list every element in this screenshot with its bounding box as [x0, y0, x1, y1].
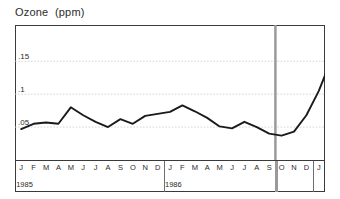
month-tick-6: J	[89, 164, 102, 172]
year-label-1986: 1986	[165, 181, 182, 189]
month-tick-13: F	[176, 164, 189, 172]
month-tick-3: A	[52, 164, 65, 172]
month-tick-15: A	[201, 164, 214, 172]
ozone-series-line	[21, 34, 325, 136]
month-tick-9: O	[126, 164, 139, 172]
month-tick-20: S	[263, 164, 276, 172]
gridlines	[15, 61, 325, 127]
intervention-marker-band	[275, 161, 278, 192]
month-tick-1: F	[27, 164, 40, 172]
month-tick-4: M	[64, 164, 77, 172]
month-tick-18: J	[238, 164, 251, 172]
plot-area	[15, 25, 325, 160]
month-tick-22: N	[288, 164, 301, 172]
y-tick-label-2: .15	[18, 53, 29, 61]
y-tick-label-0: .05	[18, 119, 29, 127]
month-tick-2: M	[40, 164, 53, 172]
month-tick-8: S	[114, 164, 127, 172]
year-divider-2	[313, 161, 314, 192]
month-tick-5: J	[77, 164, 90, 172]
chart-title: Ozone (ppm)	[15, 6, 85, 18]
month-tick-19: A	[250, 164, 263, 172]
month-tick-16: M	[213, 164, 226, 172]
plot-svg	[15, 25, 325, 160]
y-tick-label-1: .1	[18, 86, 25, 94]
month-tick-24: J	[312, 164, 325, 172]
year-label-row: 19851986	[15, 177, 325, 193]
month-tick-11: D	[151, 164, 164, 172]
month-tick-17: J	[226, 164, 239, 172]
month-tick-10: N	[139, 164, 152, 172]
month-tick-23: D	[300, 164, 313, 172]
month-tick-row: JFMAMJJASONDJFMAMJJASONDJ	[15, 161, 325, 177]
month-tick-0: J	[15, 164, 28, 172]
month-tick-14: M	[188, 164, 201, 172]
year-divider-1	[164, 161, 165, 192]
ozone-line-path	[21, 34, 325, 136]
x-axis-band: JFMAMJJASONDJFMAMJJASONDJ 19851986	[15, 160, 325, 192]
ozone-chart-figure: Ozone (ppm) .05.1.15 JFMAMJJASONDJFMAMJJ…	[0, 0, 340, 199]
month-tick-7: A	[102, 164, 115, 172]
month-tick-12: J	[164, 164, 177, 172]
year-label-1985: 1985	[16, 181, 33, 189]
